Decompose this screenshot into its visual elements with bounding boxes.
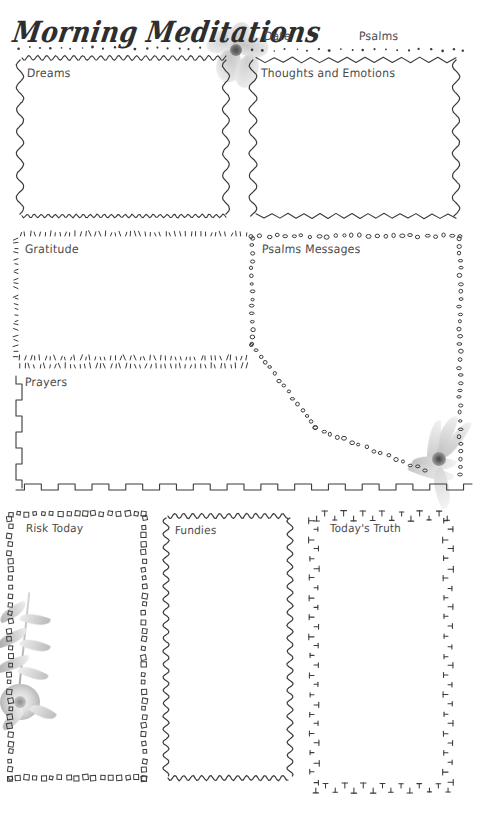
gratitude-label: Gratitude: [25, 242, 79, 256]
todays-truth-label: Today's Truth: [330, 521, 402, 534]
psalms-messages-input[interactable]: [258, 258, 452, 470]
prayers-input[interactable]: [22, 392, 238, 484]
fundies-input[interactable]: [172, 540, 280, 766]
prayers-label: Prayers: [25, 375, 68, 389]
date-input[interactable]: [290, 26, 350, 42]
journal-page: Morning Meditations Date Psalms Dreams T…: [0, 0, 488, 821]
todays-truth-input[interactable]: [326, 538, 436, 776]
fundies-label: Fundies: [175, 523, 217, 536]
thoughts-and-emotions-label: Thoughts and Emotions: [261, 66, 396, 80]
gratitude-input[interactable]: [22, 258, 240, 354]
psalms-messages-label: Psalms Messages: [262, 242, 361, 256]
risk-today-input[interactable]: [22, 538, 132, 768]
thoughts-and-emotions-input[interactable]: [256, 82, 450, 208]
psalms-input[interactable]: [396, 26, 458, 42]
dreams-input[interactable]: [24, 80, 220, 208]
risk-today-label: Risk Today: [26, 521, 84, 534]
date-label: Date: [264, 29, 292, 43]
dreams-label: Dreams: [27, 66, 71, 80]
psalms-label: Psalms: [359, 29, 399, 43]
